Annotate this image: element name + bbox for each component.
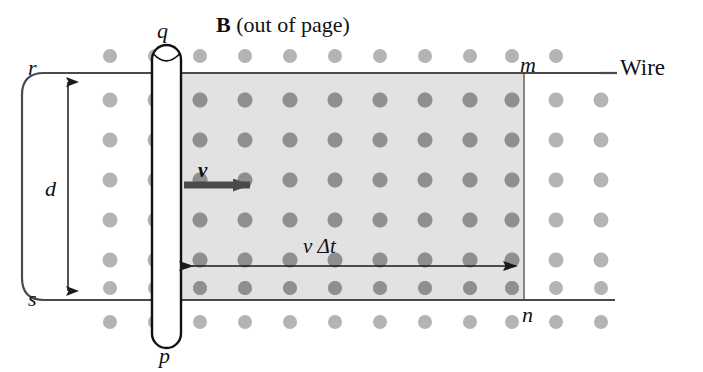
separation-label-d: d [45, 178, 56, 200]
diagram-canvas [0, 0, 703, 372]
rod-endpoint-label-q: q [157, 20, 168, 42]
rail-endpoint-label-r: r [28, 57, 37, 79]
rail-endpoint-label-n: n [522, 304, 533, 326]
swept-distance-label: v Δt [303, 236, 336, 257]
rod-endpoint-label-p: p [159, 345, 170, 367]
rail-endpoint-label-m: m [520, 54, 536, 76]
swept-distance-dt-symbol: Δt [312, 234, 335, 258]
physics-diagram-motional-emf: B (out of page) q p r s m n d v Wire v Δ… [0, 0, 703, 372]
field-note-text: (out of page) [231, 12, 350, 37]
swept-distance-v-symbol: v [303, 234, 312, 258]
rail-endpoint-label-s: s [28, 288, 37, 310]
wire-label: Wire [620, 56, 665, 79]
magnetic-field-label: B (out of page) [216, 14, 350, 36]
velocity-label-v: v [198, 160, 207, 181]
field-symbol-B: B [216, 12, 231, 37]
sliding-rod-pq[interactable] [152, 45, 181, 348]
